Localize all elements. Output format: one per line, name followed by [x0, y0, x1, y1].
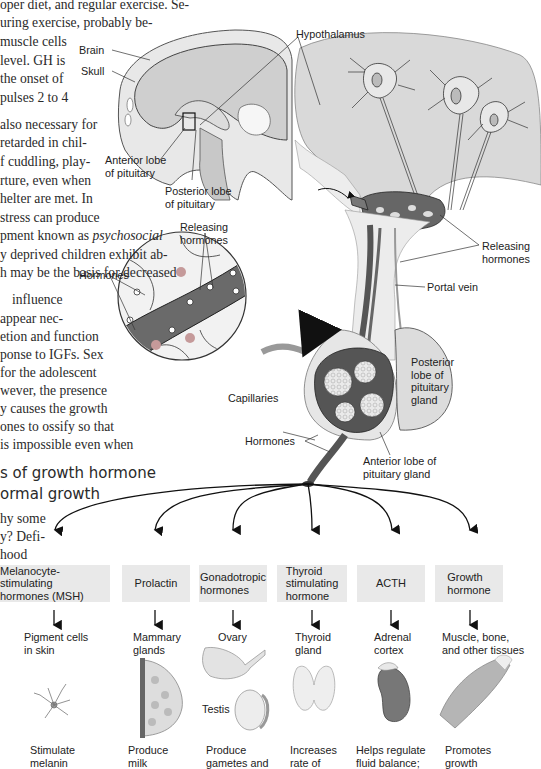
hormone-box-growth: Growth hormone [435, 565, 503, 602]
body-line: etion and function [0, 328, 99, 347]
label-portal-vein: Portal vein [427, 281, 478, 294]
section-heading: ormal growth [0, 485, 100, 503]
hormone-name: Gonadotropic hormones [200, 571, 266, 596]
hormone-box-msh: Melanocyte-stimulating hormones (MSH) [0, 565, 110, 602]
body-line: appear nec- [0, 310, 63, 329]
section-heading: s of growth hormone [0, 464, 156, 482]
target-muscle-bone: Muscle, bone, and other tissues [442, 631, 524, 656]
body-line: ponse to IGFs. Sex [0, 346, 103, 365]
body-line: pment known as psychosocial [0, 227, 163, 246]
body-line: rture, even when [0, 172, 91, 191]
effect-tsh: Increases rate of [290, 744, 337, 769]
body-line: y? Defi- [0, 528, 45, 547]
label-posterior-lobe-gland: Posterior lobe of pituitary gland [411, 356, 454, 406]
body-line: muscle cells [0, 33, 67, 52]
label-hormones-circle: Hormones [79, 269, 129, 282]
body-line: influence [12, 291, 63, 310]
hormone-name: Prolactin [135, 577, 178, 590]
effect-msh: Stimulate melanin [30, 744, 75, 769]
target-adrenal-cortex: Adrenal cortex [374, 631, 411, 656]
target-ovary: Ovary [218, 631, 247, 644]
hormone-box-gonadotropic: Gonadotropic hormones [199, 565, 267, 602]
body-line: also necessary for [0, 116, 97, 135]
label-releasing-hormones: Releasing hormones [482, 240, 530, 265]
body-line: for the adolescent [0, 364, 97, 383]
branch-arrows [55, 484, 470, 530]
body-line: stress can produce [0, 209, 100, 228]
label-capillaries: Capillaries [228, 392, 278, 405]
target-mammary-glands: Mammary glands [133, 631, 181, 656]
label-releasing-hormones-circle: Releasing hormones [180, 221, 228, 246]
body-line: ones to ossify so that [0, 418, 114, 437]
target-pigment-cells: Pigment cells in skin [24, 631, 88, 656]
body-line: f cuddling, play- [0, 153, 90, 172]
label-hormones-bottom: Hormones [245, 435, 295, 448]
label-anterior-lobe-small: Anterior lobe of pituitary [105, 154, 166, 179]
body-line: y causes the growth [0, 400, 108, 419]
adrenal-icon [378, 663, 410, 722]
effect-acth: Helps regulate fluid balance; [356, 744, 426, 769]
body-line: level. GH is [0, 52, 65, 71]
ovary-testis-icon [203, 647, 268, 730]
body-line: uring exercise, probably be- [0, 14, 153, 33]
pigment-cell-icon [34, 684, 70, 718]
mammary-gland-icon [140, 658, 182, 738]
body-line: hy some [0, 510, 46, 529]
hormone-name: ACTH [376, 577, 406, 590]
muscle-icon [440, 655, 512, 728]
hormone-name: Thyroid stimulating hormone [286, 565, 339, 603]
effect-growth: Promotes growth [445, 744, 491, 769]
hormone-name: Growth hormone [447, 571, 490, 596]
body-line: pulses 2 to 4 [0, 89, 68, 108]
body-line: wever, the presence [0, 382, 107, 401]
hypothalamus-neurons-icon [295, 33, 541, 219]
hormone-box-tsh: Thyroid stimulating hormone [277, 565, 347, 602]
effect-gonadotropic: Produce gametes and [206, 744, 268, 769]
label-brain: Brain [79, 44, 104, 57]
effect-prolactin: Produce milk [128, 744, 168, 769]
body-line: retarded in chil- [0, 134, 87, 153]
body-line: hood [0, 546, 27, 565]
hormone-name: Melanocyte-stimulating hormones (MSH) [0, 565, 110, 603]
target-testis: Testis [202, 703, 230, 716]
thyroid-icon [293, 666, 335, 710]
label-skull: Skull [81, 65, 104, 78]
label-anterior-lobe-gland: Anterior lobe of pituitary gland [363, 455, 436, 480]
target-thyroid-gland: Thyroid gland [295, 631, 331, 656]
body-line: is impossible even when [0, 436, 133, 455]
body-line: oper diet, and regular exercise. Se- [0, 0, 189, 15]
body-line: helter are met. In [0, 190, 93, 209]
down-arrows [54, 610, 470, 625]
hormone-box-acth: ACTH [357, 565, 425, 602]
body-line: y deprived children exhibit ab- [0, 246, 168, 265]
body-line: the onset of [0, 70, 63, 89]
hormone-box-prolactin: Prolactin [122, 565, 190, 602]
label-posterior-lobe-small: Posterior lobe of pituitary [165, 185, 232, 210]
label-hypothalamus: Hypothalamus [296, 28, 365, 41]
portal-system-icon [302, 188, 452, 487]
